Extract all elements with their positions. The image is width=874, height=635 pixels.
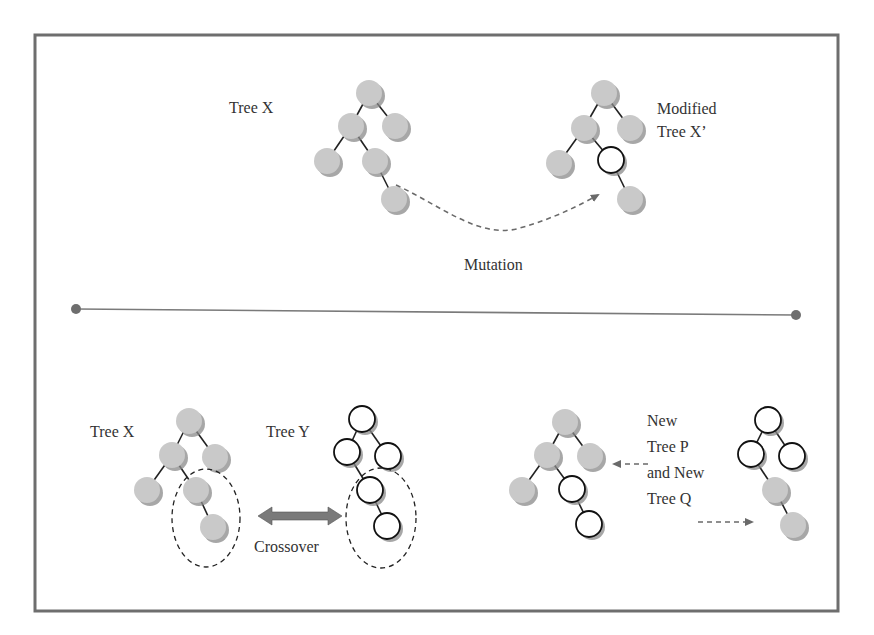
tree-node-grey	[617, 115, 643, 141]
label-tree-y: Tree Y	[266, 423, 310, 440]
tree-node-grey	[362, 148, 388, 174]
tree-node-grey	[183, 477, 209, 503]
label-new-line3: and New	[647, 464, 705, 481]
tree-node-white	[375, 443, 401, 469]
label-tree-x-mutation: Tree X	[229, 99, 274, 116]
tree-node-white	[598, 147, 624, 173]
label-tree-x-crossover: Tree X	[90, 423, 135, 440]
tree-node-grey	[552, 409, 578, 435]
tree-node-white	[349, 406, 375, 432]
tree-node-grey	[382, 113, 408, 139]
tree-x-prime	[546, 80, 646, 215]
diagram-frame	[35, 35, 838, 611]
tree-node-grey	[134, 477, 160, 503]
tree-q	[738, 407, 809, 541]
tree-node-white	[559, 476, 585, 502]
tree-node-white	[755, 407, 781, 433]
tree-node-white	[374, 513, 400, 539]
tree-node-white	[738, 441, 764, 467]
tree-node-grey	[571, 115, 597, 141]
tree-node-grey	[200, 514, 226, 540]
mutation-arrow	[396, 185, 598, 230]
tree-node-grey	[381, 186, 407, 212]
tree-node-grey	[780, 512, 806, 538]
tree-node-grey	[591, 80, 617, 106]
tree-node-grey	[202, 444, 228, 470]
tree-x-mutation	[314, 80, 411, 215]
label-mutation: Mutation	[464, 256, 523, 273]
tree-node-grey	[159, 442, 185, 468]
section-divider	[71, 304, 801, 320]
label-crossover: Crossover	[254, 538, 320, 555]
tree-node-white	[334, 439, 360, 465]
tree-node-grey	[176, 408, 202, 434]
tree-p	[509, 409, 606, 540]
tree-node-grey	[577, 443, 603, 469]
tree-node-white	[576, 511, 602, 537]
tree-node-grey	[314, 148, 340, 174]
label-new-line2: Tree P	[647, 438, 689, 455]
tree-node-grey	[509, 477, 535, 503]
label-modified-line1: Modified	[657, 100, 717, 117]
tree-y	[334, 406, 404, 542]
tree-node-grey	[617, 186, 643, 212]
divider-endpoint-right	[791, 310, 801, 320]
tree-node-grey	[338, 113, 364, 139]
tree-node-grey	[356, 80, 382, 106]
tree-node-white	[357, 477, 383, 503]
divider-endpoint-left	[71, 304, 81, 314]
label-modified-line2: Tree X’	[657, 123, 707, 140]
tree-node-white	[779, 443, 805, 469]
tree-x-crossover	[134, 408, 231, 543]
label-new-line1: New	[647, 412, 678, 429]
diagram-canvas: Tree X Modified Tree X’ Mutation Tree X …	[0, 0, 874, 635]
tree-node-grey	[762, 477, 788, 503]
label-new-line4: Tree Q	[647, 490, 692, 507]
tree-node-grey	[534, 442, 560, 468]
tree-node-grey	[546, 150, 572, 176]
crossover-double-arrow-icon	[258, 507, 342, 525]
